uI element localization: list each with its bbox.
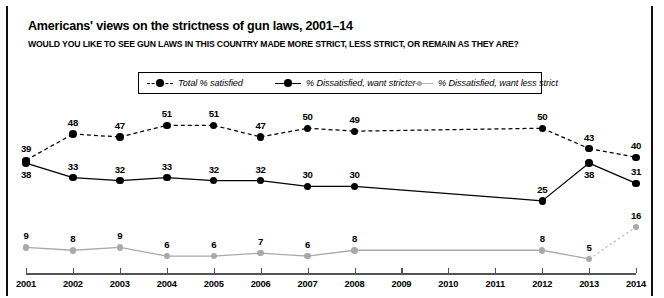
data-point[interactable]	[163, 122, 170, 129]
data-point-label: 30	[349, 169, 359, 180]
x-axis-tick	[589, 268, 590, 273]
data-point[interactable]	[116, 177, 123, 184]
data-point-label: 7	[258, 236, 263, 247]
x-axis-tick	[261, 268, 262, 273]
series-line-segment	[542, 128, 589, 148]
series-line-segment	[26, 247, 73, 250]
x-axis-tick	[355, 268, 356, 273]
series-line-segment	[261, 181, 308, 187]
x-axis-tick	[542, 268, 543, 273]
data-point[interactable]	[163, 174, 170, 181]
data-point-label: 30	[302, 169, 312, 180]
data-point[interactable]	[257, 133, 264, 140]
series-line-segment	[308, 128, 355, 131]
x-axis-tick-label: 2006	[251, 279, 271, 289]
series-line-segment	[120, 247, 167, 256]
series-line-segment	[26, 134, 73, 160]
data-point[interactable]	[69, 174, 76, 181]
data-point[interactable]	[69, 130, 76, 137]
series-line-segment	[261, 253, 308, 256]
series-line-segment	[542, 250, 589, 259]
x-axis-tick	[495, 268, 496, 273]
x-axis-tick	[448, 268, 449, 273]
x-axis-tick	[73, 268, 74, 273]
x-axis-line	[26, 273, 636, 275]
series-line-segment	[73, 178, 120, 181]
x-axis-tick	[167, 268, 168, 273]
series-line-segment	[589, 149, 636, 158]
data-point[interactable]	[23, 244, 29, 250]
chart-plot-area	[0, 0, 664, 298]
data-point-label: 5	[587, 242, 592, 253]
data-point-label: 6	[211, 239, 216, 250]
x-axis-tick-label: 2002	[63, 279, 83, 289]
series-line-segment	[261, 128, 308, 137]
data-point-label: 47	[256, 120, 266, 131]
x-axis-tick	[214, 268, 215, 273]
data-point-label: 49	[349, 114, 359, 125]
data-point[interactable]	[70, 247, 76, 253]
data-point[interactable]	[304, 253, 310, 259]
data-point[interactable]	[116, 133, 123, 140]
series-line-segment	[167, 178, 214, 181]
data-point-label: 32	[115, 164, 125, 175]
series-line-segment	[354, 128, 542, 131]
data-point[interactable]	[632, 180, 639, 187]
data-point-label: 40	[631, 140, 641, 151]
series-line-segment	[354, 186, 542, 201]
series-line-segment	[214, 253, 261, 256]
data-point-label: 8	[352, 233, 357, 244]
x-axis-tick	[308, 268, 309, 273]
data-point-label: 8	[70, 233, 75, 244]
data-point-label: 51	[209, 108, 219, 119]
data-point[interactable]	[585, 159, 592, 166]
data-point[interactable]	[351, 128, 358, 135]
x-axis-tick-label: 2009	[391, 279, 411, 289]
data-point-label: 48	[68, 117, 78, 128]
data-point-label: 50	[537, 111, 547, 122]
data-point-label: 6	[305, 239, 310, 250]
x-axis-tick	[26, 268, 27, 273]
x-axis-tick-label: 2004	[157, 279, 177, 289]
x-axis-tick-label: 2007	[298, 279, 318, 289]
series-line-segment	[73, 247, 120, 250]
data-point[interactable]	[539, 125, 546, 132]
x-axis-tick-label: 2003	[110, 279, 130, 289]
data-point-label: 32	[256, 164, 266, 175]
data-point-label: 39	[21, 143, 31, 154]
series-line-segment	[120, 125, 167, 137]
x-axis-tick	[401, 268, 402, 273]
x-axis-tick-label: 2010	[438, 279, 458, 289]
x-axis-tick-label: 2013	[579, 279, 599, 289]
data-point-label: 33	[162, 161, 172, 172]
data-point-label: 9	[117, 230, 122, 241]
data-point[interactable]	[539, 247, 545, 253]
data-point[interactable]	[585, 145, 592, 152]
series-line-segment	[308, 250, 355, 256]
data-point-label: 38	[584, 169, 594, 180]
data-point[interactable]	[539, 197, 546, 204]
data-point-label: 50	[302, 111, 312, 122]
x-axis-tick-label: 2005	[204, 279, 224, 289]
data-point-label: 43	[584, 132, 594, 143]
series-line-segment	[214, 125, 261, 137]
x-axis-tick-label: 2001	[16, 279, 36, 289]
data-point[interactable]	[632, 154, 639, 161]
x-axis: 2001200220032004200520062007200820092010…	[0, 273, 664, 298]
data-point-label: 32	[209, 164, 219, 175]
x-axis-tick	[636, 268, 637, 273]
x-axis-tick-label: 2008	[345, 279, 365, 289]
series-line-segment	[589, 163, 636, 183]
series-line-segment	[542, 163, 589, 201]
data-point[interactable]	[22, 159, 29, 166]
data-point-label: 31	[631, 166, 641, 177]
data-point-label: 38	[21, 169, 31, 180]
data-point-label: 6	[164, 239, 169, 250]
series-line-segment	[589, 227, 636, 259]
data-point[interactable]	[351, 247, 357, 253]
x-axis-tick-label: 2011	[486, 279, 505, 289]
data-point-label: 9	[23, 230, 28, 241]
data-point-label: 16	[631, 210, 641, 221]
data-point-label: 8	[540, 233, 545, 244]
data-point[interactable]	[117, 244, 123, 250]
